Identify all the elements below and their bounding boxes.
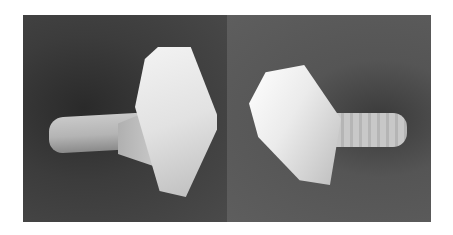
photo-right-thumb-screw	[227, 15, 431, 222]
screw-head	[135, 47, 217, 197]
photo-left-thumb-screw	[23, 15, 227, 222]
screw-head	[249, 65, 341, 185]
